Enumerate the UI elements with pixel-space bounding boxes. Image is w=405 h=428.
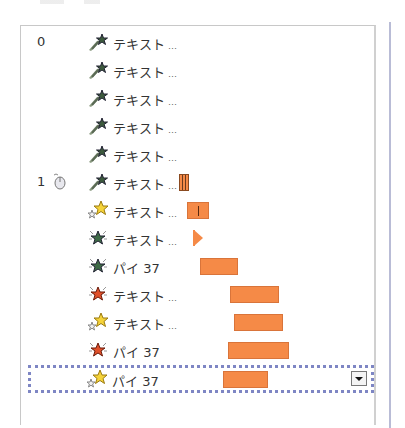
- ellipsis: …: [168, 209, 177, 219]
- stars-yellow-effect-icon: [87, 200, 109, 220]
- stars-yellow-effect-icon: [87, 312, 109, 332]
- timeline-bar[interactable]: [200, 258, 238, 275]
- sequence-number: 0: [37, 34, 45, 49]
- animation-item-9[interactable]: テキスト…: [29, 281, 374, 308]
- animation-item-12-selected[interactable]: パイ 37: [28, 365, 374, 393]
- ellipsis: …: [168, 181, 177, 191]
- item-label: パイ 37: [112, 374, 159, 389]
- pane-splitter[interactable]: [389, 22, 391, 428]
- star-green-effect-icon: [87, 228, 109, 248]
- sparkle-green-effect-icon: [87, 32, 109, 52]
- ellipsis: …: [168, 237, 177, 247]
- ellipsis: …: [168, 41, 177, 51]
- star-red-effect-icon: [87, 284, 109, 304]
- animation-item-2[interactable]: テキスト…: [29, 85, 374, 112]
- animation-item-4[interactable]: テキスト…: [29, 141, 374, 168]
- animation-item-11[interactable]: パイ 37: [29, 337, 374, 364]
- item-label: テキスト: [113, 177, 165, 192]
- sparkle-green-effect-icon: [87, 172, 109, 192]
- item-label: パイ 37: [113, 261, 160, 276]
- timeline-bar[interactable]: [223, 371, 268, 388]
- sparkle-green-effect-icon: [87, 144, 109, 164]
- item-options-dropdown-button[interactable]: [351, 371, 367, 386]
- sequence-number: 1: [37, 174, 45, 189]
- animation-item-0[interactable]: 0 テキスト…: [29, 29, 374, 56]
- ellipsis: …: [168, 153, 177, 163]
- animation-item-5[interactable]: 1 テキスト…: [29, 169, 374, 196]
- animation-item-6[interactable]: テキスト…: [29, 197, 374, 224]
- animation-item-8[interactable]: パイ 37: [29, 253, 374, 280]
- item-label: パイ 37: [113, 345, 160, 360]
- item-label: テキスト: [113, 233, 165, 248]
- sparkle-green-effect-icon: [87, 88, 109, 108]
- stars-yellow-effect-icon: [86, 369, 108, 389]
- timeline-marker: [198, 206, 199, 216]
- timeline-bar[interactable]: [228, 342, 289, 359]
- star-red-effect-icon: [87, 340, 109, 360]
- star-green-effect-icon: [87, 256, 109, 276]
- chevron-down-icon: [355, 377, 363, 381]
- item-label: テキスト: [113, 93, 165, 108]
- item-label: テキスト: [113, 317, 165, 332]
- animation-pane-list[interactable]: 0 テキスト… テキスト… テキスト… テキスト… テキスト…: [20, 25, 376, 425]
- animation-item-10[interactable]: テキスト…: [29, 309, 374, 336]
- ellipsis: …: [168, 125, 177, 135]
- ellipsis: …: [168, 69, 177, 79]
- animation-item-7[interactable]: テキスト…: [29, 225, 374, 252]
- item-label: テキスト: [113, 149, 165, 164]
- item-label: テキスト: [113, 289, 165, 304]
- mouse-click-icon: [51, 172, 67, 190]
- animation-item-3[interactable]: テキスト…: [29, 113, 374, 140]
- timeline-bar[interactable]: [194, 230, 203, 246]
- ellipsis: …: [168, 97, 177, 107]
- clipped-header-text: [40, 0, 120, 4]
- sparkle-green-effect-icon: [87, 116, 109, 136]
- timeline-bar[interactable]: [179, 174, 189, 191]
- item-label: テキスト: [113, 205, 165, 220]
- item-label: テキスト: [113, 121, 165, 136]
- animation-item-1[interactable]: テキスト…: [29, 57, 374, 84]
- sparkle-green-effect-icon: [87, 60, 109, 80]
- ellipsis: …: [168, 293, 177, 303]
- timeline-bar[interactable]: [234, 314, 283, 331]
- item-label: テキスト: [113, 65, 165, 80]
- timeline-bar[interactable]: [187, 202, 209, 219]
- item-label: テキスト: [113, 37, 165, 52]
- ellipsis: …: [168, 321, 177, 331]
- timeline-bar[interactable]: [230, 286, 279, 303]
